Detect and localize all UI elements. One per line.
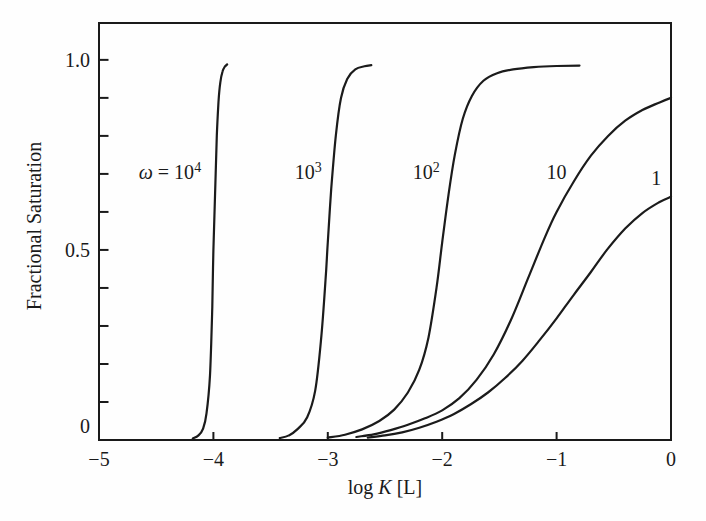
figure-canvas: −5−4−3−2−1000.51.0log K [L]Fractional Sa… — [0, 0, 706, 521]
x-tick-label: −3 — [317, 448, 338, 470]
y-tick-label: 1.0 — [65, 49, 90, 71]
curve-omega-1 — [368, 197, 671, 438]
x-tick-label: −2 — [432, 448, 453, 470]
x-tick-label: −1 — [546, 448, 567, 470]
y-tick-label: 0.5 — [65, 239, 90, 261]
curve-label-omega-1e3: 103 — [295, 160, 322, 183]
curve-omega-10 — [356, 98, 671, 437]
curve-omega-1e2 — [328, 66, 580, 438]
x-axis-title: log K [L] — [348, 476, 422, 499]
y-axis-title: Fractional Saturation — [23, 142, 45, 310]
plot-frame — [99, 23, 671, 440]
curve-label-omega-1e4: ω = 104 — [139, 160, 201, 183]
y-tick-label: 0 — [80, 415, 90, 437]
curve-label-omega-1e2: 102 — [413, 160, 440, 183]
x-tick-label: 0 — [666, 448, 676, 470]
curve-omega-1e4 — [193, 64, 227, 438]
curve-label-omega-10: 10 — [547, 161, 567, 183]
x-tick-label: −5 — [88, 448, 109, 470]
binding-curves-chart: −5−4−3−2−1000.51.0log K [L]Fractional Sa… — [0, 0, 706, 521]
curve-label-omega-1: 1 — [651, 167, 661, 189]
curve-omega-1e3 — [280, 65, 372, 438]
x-tick-label: −4 — [203, 448, 224, 470]
